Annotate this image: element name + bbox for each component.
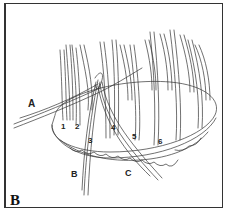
label-C: C — [125, 168, 132, 178]
stake-number-3: 3 — [88, 136, 93, 145]
stake-number-6: 6 — [158, 137, 163, 146]
stake-number-1: 1 — [61, 122, 66, 131]
label-A: A — [28, 98, 35, 109]
stake-number-2: 2 — [75, 122, 80, 131]
stakes — [60, 30, 210, 145]
stake-number-5: 5 — [132, 132, 137, 141]
label-B-weaver: B — [71, 169, 78, 179]
basket-illustration: A B C 1 2 3 4 5 6 B — [0, 0, 229, 214]
stake-number-4: 4 — [111, 123, 116, 132]
panel-label: B — [10, 192, 20, 208]
